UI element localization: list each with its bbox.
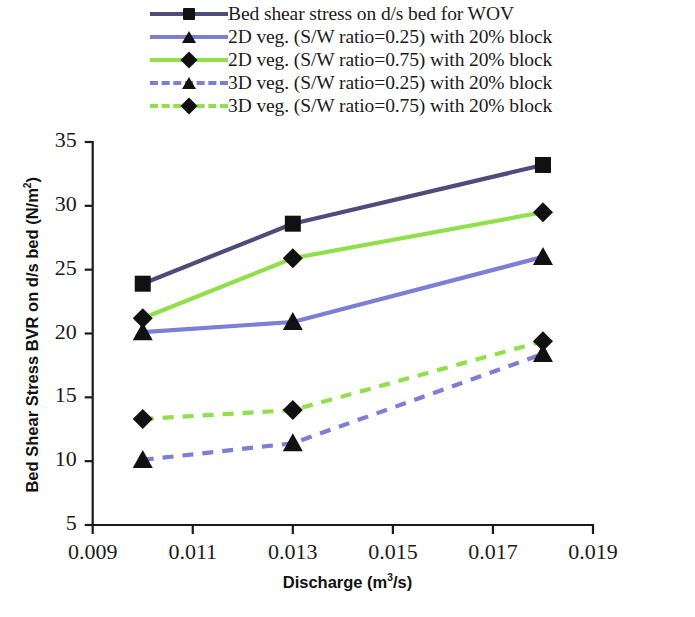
series-line-2 <box>143 212 543 318</box>
series-line-4 <box>143 341 543 419</box>
x-axis-title-close: /s) <box>393 573 412 591</box>
x-axis-title: Discharge (m3/s) <box>0 572 695 592</box>
y-axis-title-main: Bed Shear Stress BVR on d/s bed (N/m <box>23 188 41 492</box>
data-point-diamond[interactable] <box>283 248 303 268</box>
x-axis-tick-label: 0.011 <box>147 539 239 565</box>
x-axis-tick-label: 0.017 <box>447 539 539 565</box>
data-point-diamond[interactable] <box>133 308 153 328</box>
x-axis-tick-label: 0.019 <box>547 539 639 565</box>
data-point-diamond[interactable] <box>533 331 553 351</box>
data-point-triangle[interactable] <box>533 247 553 265</box>
y-axis-title: Bed Shear Stress BVR on d/s bed (N/m2) <box>22 135 42 535</box>
series-line-3 <box>143 354 543 460</box>
plot-area: 5101520253035 0.0090.0110.0130.0150.0170… <box>0 0 695 617</box>
plot-svg <box>0 0 695 617</box>
data-point-square[interactable] <box>535 157 551 173</box>
data-point-square[interactable] <box>285 216 301 232</box>
x-axis-title-main: Discharge (m <box>283 573 388 591</box>
y-axis-title-exponent: 2 <box>22 182 33 188</box>
data-point-square[interactable] <box>135 276 151 292</box>
x-axis-tick-label: 0.013 <box>247 539 339 565</box>
x-axis-tick-label: 0.015 <box>347 539 439 565</box>
x-axis-tick-label: 0.009 <box>47 539 139 565</box>
chart-figure: Bed shear stress on d/s bed for WOV2D ve… <box>0 0 695 617</box>
data-point-diamond[interactable] <box>533 202 553 222</box>
y-axis-title-close: ) <box>23 177 41 183</box>
data-point-diamond[interactable] <box>133 409 153 429</box>
data-point-diamond[interactable] <box>283 400 303 420</box>
